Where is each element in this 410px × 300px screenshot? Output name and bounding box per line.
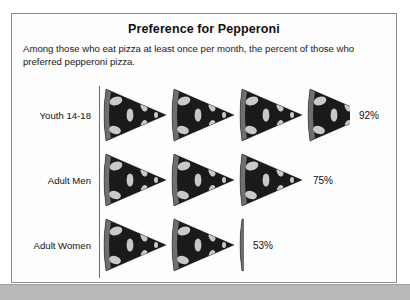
page-title: Preference for Pepperoni bbox=[12, 22, 396, 36]
screenshot-page: Preference for Pepperoni Among those who… bbox=[0, 0, 410, 300]
pizza-slice-icon bbox=[100, 85, 168, 145]
row-category-label: Adult Women bbox=[12, 214, 91, 276]
pizza-slice-icon bbox=[236, 150, 304, 210]
figure-subtitle: Among those who eat pizza at least once … bbox=[23, 43, 381, 68]
row-category-label: Youth 14-18 bbox=[12, 84, 91, 146]
pizza-slice-full bbox=[168, 215, 236, 275]
pizza-slice-full bbox=[168, 150, 236, 210]
pizza-slice-full bbox=[168, 85, 236, 145]
pizza-slice-icon bbox=[304, 85, 350, 145]
figure-panel: Preference for Pepperoni Among those who… bbox=[11, 13, 397, 283]
pizza-slice-full bbox=[100, 85, 168, 145]
pizza-slice-icon bbox=[100, 150, 168, 210]
pizza-slice-icon bbox=[168, 85, 236, 145]
pizza-slice-full bbox=[236, 85, 304, 145]
row-value-label: 92% bbox=[359, 84, 379, 146]
pictogram-chart: Youth 14-18 bbox=[12, 84, 398, 282]
chart-row: Youth 14-18 bbox=[12, 84, 398, 146]
pizza-slice-icon bbox=[100, 215, 168, 275]
row-value-label: 53% bbox=[253, 214, 273, 276]
page-bottom-band bbox=[0, 284, 410, 300]
chart-row: Adult Men bbox=[12, 149, 398, 211]
pizza-slice-partial bbox=[304, 85, 350, 145]
pizza-slice-full bbox=[100, 215, 168, 275]
pizza-slice-icon bbox=[168, 215, 236, 275]
pizza-slice-full bbox=[236, 150, 304, 210]
chart-row: Adult Women bbox=[12, 214, 398, 276]
row-value-label: 75% bbox=[313, 149, 333, 211]
pizza-slice-icon bbox=[168, 150, 236, 210]
pizza-slice-partial bbox=[236, 215, 244, 275]
row-category-label: Adult Men bbox=[12, 149, 91, 211]
pizza-slice-icon bbox=[236, 215, 244, 275]
pizza-slice-full bbox=[100, 150, 168, 210]
pizza-slice-icon bbox=[236, 85, 304, 145]
